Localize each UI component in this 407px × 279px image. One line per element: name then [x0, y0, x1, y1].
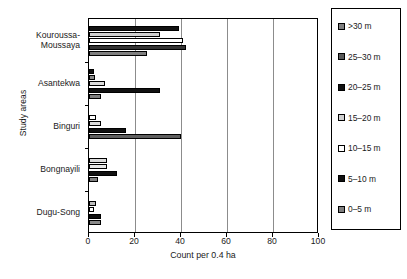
bar: [89, 88, 160, 93]
category-label-4: Dugu-Song: [0, 207, 80, 217]
x-tick-label-0: 0: [73, 236, 103, 246]
category-label-0: Kouroussa- Moussaya: [0, 30, 80, 50]
bar: [89, 38, 183, 43]
bar: [89, 75, 95, 80]
x-tick-label-20: 20: [119, 236, 149, 246]
legend-swatch-icon: [338, 175, 345, 182]
bar: [89, 207, 94, 212]
bar: [89, 220, 101, 225]
legend-item-1[interactable]: 25–30 m: [338, 52, 381, 62]
bar: [89, 94, 101, 99]
x-tick-label-100: 100: [303, 236, 333, 246]
bar: [89, 121, 101, 126]
x-tick-label-40: 40: [165, 236, 195, 246]
category-labels: Kouroussa- MoussayaAsantekwaBinguriBongn…: [0, 18, 84, 233]
legend-item-5[interactable]: 5–10 m: [338, 174, 376, 184]
bar: [89, 214, 101, 219]
bar: [89, 128, 126, 133]
plot-area: [88, 18, 318, 233]
legend-label: >30 m: [348, 21, 372, 31]
bar: [89, 177, 98, 182]
legend-label: 0–5 m: [348, 204, 371, 214]
bar: [89, 171, 117, 176]
legend-swatch-icon: [338, 206, 345, 213]
bar: [89, 26, 179, 31]
bar: [89, 45, 186, 50]
x-tick-label-80: 80: [257, 236, 287, 246]
legend-swatch-icon: [338, 114, 345, 121]
legend-item-4[interactable]: 10–15 m: [338, 143, 381, 153]
x-axis-tick: [318, 233, 319, 237]
legend-label: 15–20 m: [348, 113, 381, 123]
bar: [89, 32, 160, 37]
x-axis-title: Count per 0.4 ha: [88, 250, 318, 260]
legend-label: 10–15 m: [348, 143, 381, 153]
x-axis-tick: [180, 233, 181, 237]
bar: [89, 115, 96, 120]
x-tick-label-60: 60: [211, 236, 241, 246]
bars-layer: [89, 19, 317, 232]
legend-item-2[interactable]: 20–25 m: [338, 82, 381, 92]
x-axis-tick: [272, 233, 273, 237]
legend-item-0[interactable]: >30 m: [338, 21, 372, 31]
legend-swatch-icon: [338, 53, 345, 60]
legend: >30 m25–30 m20–25 m15–20 m10–15 m5–10 m0…: [331, 8, 401, 230]
bar: [89, 51, 147, 56]
x-axis-tick: [226, 233, 227, 237]
bar: [89, 164, 107, 169]
bar: [89, 134, 181, 139]
legend-swatch-icon: [338, 84, 345, 91]
category-label-3: Bongnayili: [0, 164, 80, 174]
legend-label: 20–25 m: [348, 82, 381, 92]
x-axis-tick: [134, 233, 135, 237]
legend-label: 25–30 m: [348, 52, 381, 62]
legend-label: 5–10 m: [348, 174, 376, 184]
legend-item-6[interactable]: 0–5 m: [338, 204, 371, 214]
bar: [89, 201, 96, 206]
x-axis-tick: [88, 233, 89, 237]
category-label-1: Asantekwa: [0, 78, 80, 88]
legend-swatch-icon: [338, 145, 345, 152]
bar: [89, 69, 94, 74]
legend-item-3[interactable]: 15–20 m: [338, 113, 381, 123]
category-label-2: Binguri: [0, 121, 80, 131]
chart-figure: Study areas Kouroussa- MoussayaAsantekwa…: [0, 0, 407, 279]
legend-swatch-icon: [338, 23, 345, 30]
bar: [89, 158, 107, 163]
x-axis-tick-labels: 020406080100: [0, 236, 330, 250]
bar: [89, 81, 105, 86]
